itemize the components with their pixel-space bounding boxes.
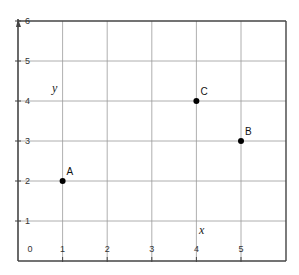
y-tick-label: 4: [25, 96, 30, 106]
grid-lines: [18, 21, 286, 261]
x-axis-ticks: 012345: [27, 244, 243, 262]
point-marker-icon: [193, 98, 199, 104]
point-label: A: [67, 166, 74, 177]
plot-frame: [16, 19, 286, 261]
point-marker-icon: [60, 178, 66, 184]
x-tick-label: 4: [194, 244, 199, 254]
x-axis-title: x: [198, 223, 205, 237]
y-tick-label: 5: [25, 56, 30, 66]
y-tick-label: 3: [25, 136, 30, 146]
x-tick-label: 0: [27, 244, 32, 254]
x-tick-label: 1: [60, 244, 65, 254]
y-tick-label: 1: [25, 216, 30, 226]
point-label: C: [200, 86, 207, 97]
y-axis-title: y: [51, 81, 58, 95]
y-tick-label: 2: [25, 176, 30, 186]
x-tick-label: 3: [149, 244, 154, 254]
coordinate-plane-chart: 123456 012345 y x ABC: [0, 0, 299, 275]
point-marker-icon: [238, 138, 244, 144]
x-tick-label: 5: [238, 244, 243, 254]
x-tick-label: 2: [105, 244, 110, 254]
point-label: B: [245, 126, 252, 137]
y-tick-label: 6: [25, 16, 30, 26]
